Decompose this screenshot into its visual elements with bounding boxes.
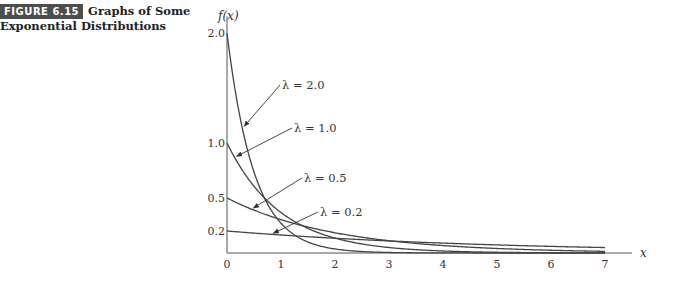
curve-lambda-1 — [227, 143, 605, 253]
annotation-label: λ = 0.2 — [320, 205, 363, 219]
exponential-chart: xf(x)012345670.20.51.02.0λ = 2.0λ = 1.0λ… — [0, 0, 687, 291]
y-tick-label: 0.5 — [208, 192, 226, 205]
x-tick-label: 0 — [224, 258, 231, 271]
annotation-label: λ = 2.0 — [282, 78, 325, 92]
x-tick-label: 1 — [278, 258, 285, 271]
annotation-arrow — [244, 85, 280, 126]
x-tick-label: 2 — [332, 258, 339, 271]
curve-lambda-0-2 — [227, 231, 605, 248]
x-tick-label: 4 — [440, 258, 447, 271]
annotation-label: λ = 0.5 — [304, 171, 347, 185]
y-tick-label: 1.0 — [208, 137, 226, 150]
x-tick-label: 3 — [386, 258, 393, 271]
y-tick-label: 0.2 — [208, 225, 226, 238]
x-tick-label: 7 — [602, 258, 609, 271]
y-axis-label: f(x) — [217, 9, 239, 23]
curve-lambda-0-5 — [227, 198, 605, 251]
x-tick-label: 6 — [548, 258, 555, 271]
y-tick-label: 2.0 — [208, 27, 226, 40]
x-tick-label: 5 — [494, 258, 501, 271]
x-axis-label: x — [640, 246, 647, 260]
annotation-label: λ = 1.0 — [294, 121, 337, 135]
